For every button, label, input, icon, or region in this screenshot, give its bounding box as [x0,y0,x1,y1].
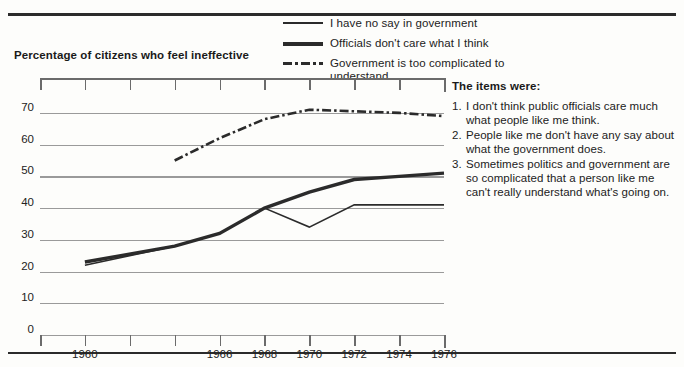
legend-swatch-solid-thin-icon [283,17,323,30]
y-axis-tick-label: 30 [21,228,34,240]
x-axis-tick-label: 1960 [72,348,98,360]
list-item-number: 3. [452,157,466,199]
list-item-number: 2. [452,128,466,156]
x-axis-tick [130,335,132,346]
series-line [85,205,444,265]
list-item: 3.Sometimes politics and government are … [452,157,676,199]
top-ruler-tick [40,78,42,90]
legend-entry-no-say: I have no say in government [283,17,533,30]
top-ruler-tick [130,78,132,90]
items-panel-title: The items were: [452,80,676,92]
top-ruler-tick [85,78,87,90]
top-axis-ruler [40,78,444,92]
y-axis-tick-label: 0 [28,323,34,335]
figure: I have no say in government Officials do… [0,0,684,367]
legend-entry-officials-dont-care: Officials don't care what I think [283,37,533,50]
y-axis-tick-label: 50 [21,164,34,176]
list-item-text: I don't think public officials care much… [466,99,676,127]
list-item-text: People like me don't have any say about … [466,128,676,156]
list-item-text: Sometimes politics and government are so… [466,157,676,199]
x-axis-tick-label: 1968 [252,348,278,360]
x-axis-tick-label: 1974 [386,348,412,360]
list-item: 1.I don't think public officials care mu… [452,99,676,127]
y-axis-tick-label: 70 [21,101,34,113]
list-item-number: 1. [452,99,466,127]
legend-label: I have no say in government [330,17,477,30]
top-ruler-tick [220,78,222,90]
top-ruler-tick [444,78,446,92]
x-axis-tick [85,335,87,346]
top-ruler-tick [354,78,356,90]
top-ruler-tick [309,78,311,90]
top-ruler-tick [399,78,401,90]
series-line [85,173,444,262]
top-rule [8,13,676,16]
x-axis-tick [264,335,266,346]
chart-title: Percentage of citizens who feel ineffect… [14,49,249,63]
x-axis-tick-label: 1972 [341,348,367,360]
x-axis-tick-label: 1966 [207,348,233,360]
y-axis-tick-label: 20 [21,260,34,272]
top-ruler-tick [175,78,177,90]
x-axis-tick [354,335,356,346]
x-axis-tick [309,335,311,346]
plot-area: 010203040506070 196019661968197019721974… [14,78,444,340]
legend-swatch-dash-dot-icon [283,57,323,70]
x-axis-tick [444,335,446,348]
x-axis-tick [40,335,42,346]
x-axis-tick [220,335,222,346]
items-list: 1.I don't think public officials care mu… [452,99,676,199]
y-axis-tick-label: 40 [21,196,34,208]
y-axis-tick-label: 60 [21,133,34,145]
x-axis-tick [175,335,177,346]
legend-label: Officials don't care what I think [330,37,489,50]
series-line [175,110,444,161]
x-axis: 1960196619681970197219741976 [40,335,444,365]
y-axis-tick-label: 10 [21,291,34,303]
top-ruler-tick [264,78,266,90]
x-axis-tick [399,335,401,346]
series-lines [40,97,444,335]
x-axis-tick-label: 1970 [297,348,323,360]
legend-swatch-solid-thick-icon [283,37,323,50]
x-axis-tick-label: 1976 [431,348,457,360]
items-panel: The items were: 1.I don't think public o… [452,80,676,200]
list-item: 2.People like me don't have any say abou… [452,128,676,156]
